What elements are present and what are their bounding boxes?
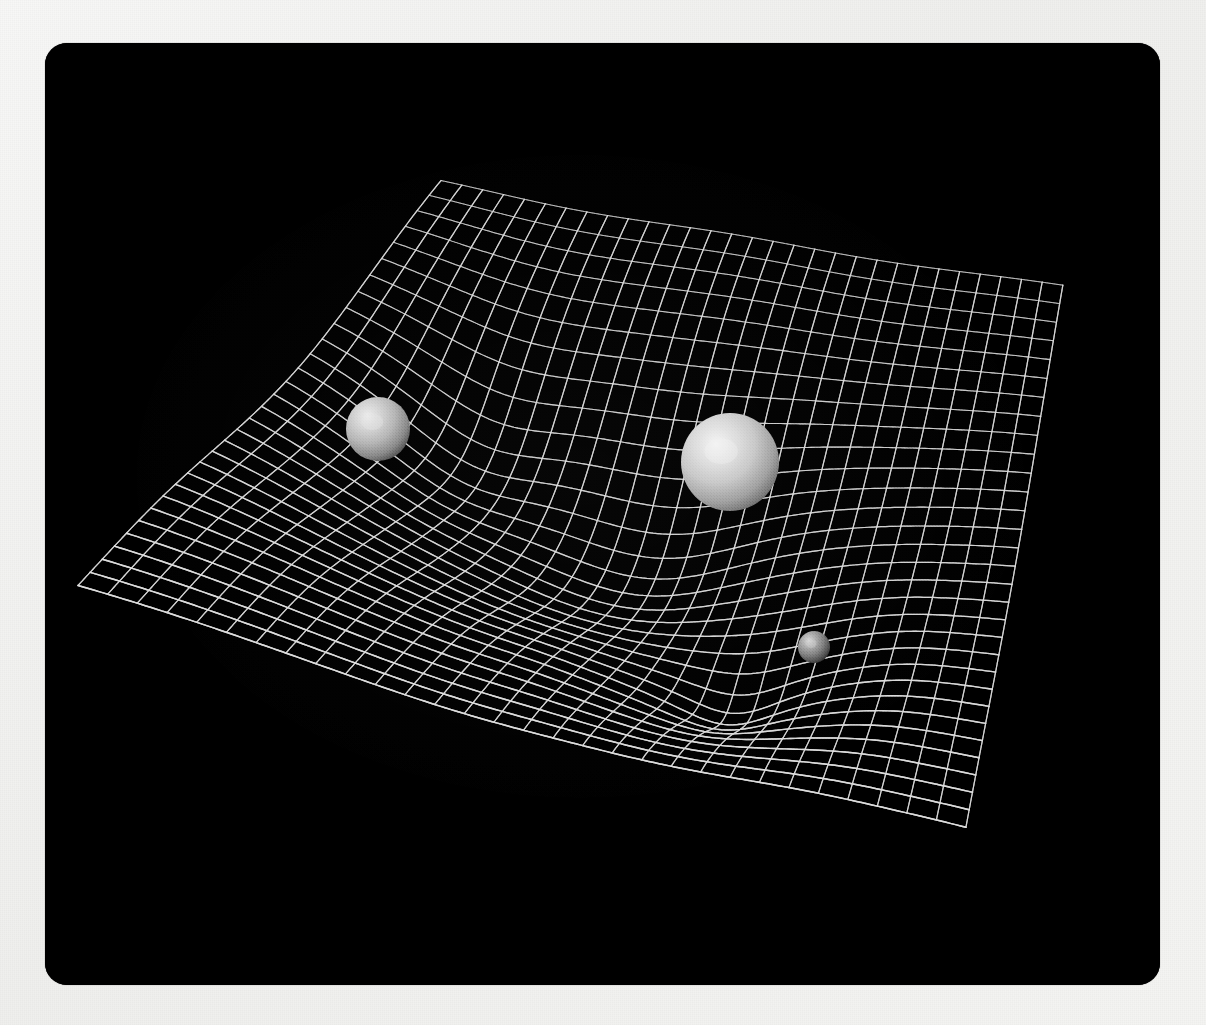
sphere-highlight bbox=[705, 438, 738, 463]
mass-small-right bbox=[798, 631, 830, 663]
sphere-highlight bbox=[806, 639, 817, 647]
sphere-highlight bbox=[361, 414, 383, 431]
mass-large-center bbox=[681, 413, 779, 511]
spacetime-scene bbox=[45, 43, 1160, 985]
scene-background bbox=[45, 43, 1160, 985]
image-panel bbox=[45, 43, 1160, 985]
mass-medium-left bbox=[346, 397, 410, 461]
